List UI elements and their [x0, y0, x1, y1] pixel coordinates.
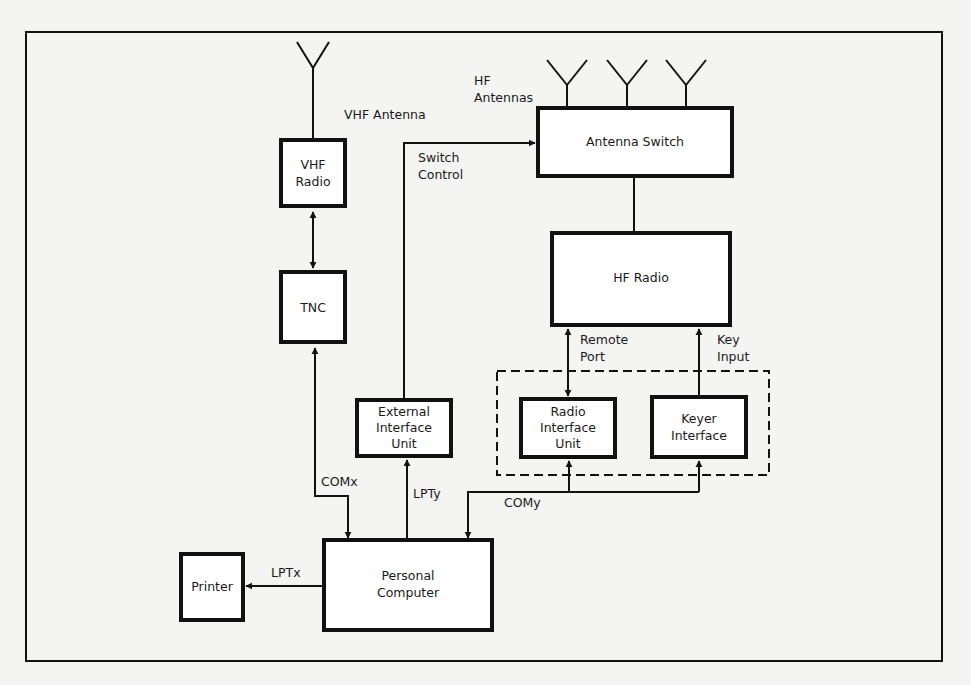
- block-radio-interface-unit: Radio Interface Unit: [521, 399, 615, 457]
- comy-label: COMy: [504, 495, 541, 510]
- comx-link: [315, 348, 348, 538]
- diagram-stage: VHF Radio TNC Antenna Switch HF Radio Ex…: [0, 0, 971, 685]
- block-label: TNC: [299, 300, 326, 315]
- hf-antenna-icon-1: [547, 60, 587, 107]
- block-diagram: VHF Radio TNC Antenna Switch HF Radio Ex…: [0, 0, 971, 685]
- block-external-interface-unit: External Interface Unit: [357, 400, 451, 456]
- block-label: Computer: [377, 585, 440, 600]
- block-label: Radio: [550, 404, 585, 419]
- key-input-label-line2: Input: [717, 349, 749, 364]
- block-tnc: TNC: [281, 272, 345, 342]
- block-label: External: [378, 404, 430, 419]
- lptx-label: LPTx: [271, 565, 301, 580]
- block-label: VHF: [300, 157, 325, 172]
- hf-antenna-icon-3: [666, 60, 706, 107]
- switch-control-label-line1: Switch: [418, 150, 459, 165]
- block-label: HF Radio: [613, 270, 669, 285]
- block-keyer-interface: Keyer Interface: [652, 397, 746, 457]
- remote-port-label-line1: Remote: [580, 332, 629, 347]
- block-label: Interface: [540, 420, 596, 435]
- block-vhf-radio: VHF Radio: [281, 140, 345, 206]
- block-label: Unit: [555, 436, 581, 451]
- remote-port-label-line2: Port: [580, 349, 605, 364]
- vhf-antenna-label: VHF Antenna: [344, 107, 426, 122]
- switch-control-label-line2: Control: [418, 167, 463, 182]
- block-antenna-switch: Antenna Switch: [538, 108, 732, 176]
- lpty-label: LPTy: [413, 486, 441, 501]
- block-label: Interface: [671, 428, 727, 443]
- block-label: Interface: [376, 420, 432, 435]
- block-personal-computer: Personal Computer: [324, 540, 492, 630]
- vhf-antenna-icon: [297, 42, 329, 138]
- comy-bus: [468, 492, 699, 538]
- block-hf-radio: HF Radio: [552, 233, 730, 325]
- hf-antenna-icon-2: [607, 60, 647, 107]
- block-label: Printer: [191, 579, 233, 594]
- block-label: Unit: [391, 436, 417, 451]
- block-printer: Printer: [181, 554, 243, 620]
- block-label: Radio: [295, 174, 330, 189]
- comx-label: COMx: [321, 474, 358, 489]
- block-label: Antenna Switch: [586, 134, 684, 149]
- key-input-label-line1: Key: [717, 332, 740, 347]
- hf-antennas-label-line1: HF: [474, 73, 491, 88]
- hf-antennas-label-line2: Antennas: [474, 90, 533, 105]
- block-label: Personal: [381, 568, 434, 583]
- block-label: Keyer: [681, 411, 717, 426]
